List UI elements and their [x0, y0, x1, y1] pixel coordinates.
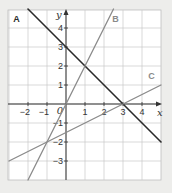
y-tick-label: 1: [58, 80, 63, 90]
plot-background: [8, 10, 161, 180]
x-axis-label: x: [157, 107, 163, 118]
y-axis-label: y: [55, 9, 62, 20]
x-tick-label: 4: [139, 107, 144, 117]
line-label-c: C: [148, 71, 155, 81]
line-label-b: B: [112, 14, 119, 24]
x-tick-label: −2: [20, 107, 30, 117]
y-tick-label: 2: [58, 61, 63, 71]
x-tick-label: 1: [82, 107, 87, 117]
y-tick-label: −3: [53, 156, 63, 166]
y-tick-label: 4: [58, 23, 63, 33]
x-tick-label: 3: [120, 107, 125, 117]
line-chart: −2−112344321−1−2−30xy ABC: [0, 0, 172, 193]
x-tick-label: −1: [39, 107, 49, 117]
line-label-a: A: [13, 14, 20, 24]
